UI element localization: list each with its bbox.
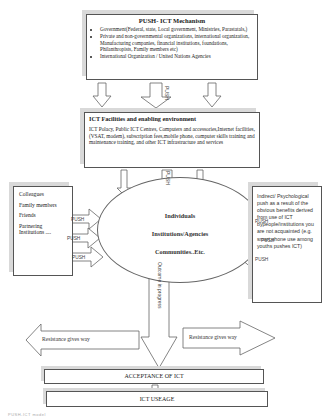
push-label-left-3: PUSH: [72, 255, 85, 260]
acceptance-box: ACCEPTANCE OF ICT: [44, 369, 264, 384]
source-colleagues: Colleagues: [19, 191, 67, 198]
usage-box: ICT USEAGE: [46, 391, 268, 407]
facilities-text: ICT Polacy, Public ICT Centres, Computer…: [89, 126, 255, 146]
list-item: Private and non-governmental organizatio…: [100, 33, 253, 52]
facilities-title: ICT Facilities and enabling environment: [89, 115, 255, 122]
down-arrow-left: [93, 83, 111, 107]
push-label-left-2: PUSH: [67, 236, 80, 241]
push-label-right-3: PUSH: [255, 257, 268, 262]
social-sources-box: Colleagues Family members Friends Partne…: [13, 186, 73, 276]
source-friends: Friends: [19, 212, 67, 219]
center-individuals: Individuals: [97, 212, 263, 219]
facilities-box: ICT Facilities and enabling environment …: [84, 112, 260, 168]
list-item: International Organization / United Nati…: [100, 53, 253, 59]
figure-caption: PUSH-ICT model: [8, 412, 46, 417]
push-label-right-2: PUSH: [261, 238, 274, 243]
push-label-right-1: PUSH: [255, 219, 268, 224]
down-arrow-right: [203, 83, 221, 107]
resistance-label-right: Resistance gives way: [189, 334, 237, 340]
push-label-left-1: PUSH: [71, 217, 84, 222]
outcome-label: Outcome in progress: [157, 262, 163, 308]
push-mechanism-list: Government(Federal, state, Local governm…: [91, 26, 253, 59]
list-item: Government(Federal, state, Local governm…: [100, 26, 253, 32]
push-mechanism-title: PUSH- ICT Mechanism: [91, 17, 253, 24]
center-institutions: Institutions/Agencies: [97, 230, 263, 237]
source-partnering: Partnering Institutions ....: [19, 223, 67, 236]
push-label-mid: PUSH: [165, 171, 171, 185]
push-mechanism-box: PUSH- ICT Mechanism Government(Federal, …: [86, 14, 258, 80]
center-communities: Communities..Etc.: [97, 248, 263, 255]
source-family: Family members: [19, 202, 59, 209]
push-label-top: PUSH: [164, 86, 170, 100]
resistance-label-left: Resistance gives way: [42, 336, 90, 342]
indirect-push-box: Indirect/ Psychological push as a result…: [252, 186, 322, 303]
